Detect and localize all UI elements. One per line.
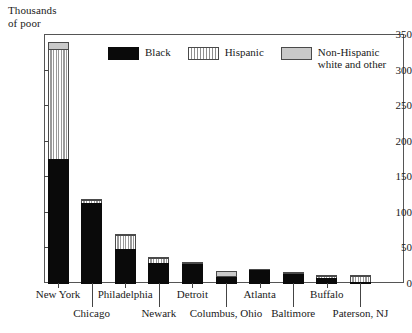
bar-segment bbox=[115, 235, 136, 250]
x-axis-label: Buffalo bbox=[310, 288, 343, 300]
y-axis-title: Thousands of poor bbox=[8, 4, 57, 29]
legend-swatch-hispanic-icon bbox=[188, 47, 219, 60]
y-axis-tick-label: 50 bbox=[378, 241, 412, 253]
bar bbox=[115, 234, 136, 283]
y-axis-tick-label: 200 bbox=[378, 135, 412, 147]
legend-swatch-gray-icon bbox=[281, 47, 312, 60]
y-axis-tick-label: 150 bbox=[378, 170, 412, 182]
legend-label-nonhispanic-white-other: Non-Hispanic white and other bbox=[318, 46, 386, 70]
y-axis-tick-label: 0 bbox=[378, 277, 412, 289]
x-axis-tick-mark bbox=[260, 283, 261, 288]
x-axis-label: Baltimore bbox=[271, 307, 315, 319]
bar bbox=[148, 257, 169, 283]
x-axis-label: Paterson, NJ bbox=[333, 307, 389, 319]
x-axis-tick-mark bbox=[360, 283, 361, 307]
bar-segment bbox=[182, 264, 203, 284]
x-axis-tick-mark bbox=[192, 283, 193, 288]
bar-segment bbox=[115, 249, 136, 284]
x-axis-tick-mark bbox=[125, 283, 126, 288]
legend-item-black: Black bbox=[108, 46, 171, 60]
x-axis-tick-mark bbox=[226, 283, 227, 307]
x-axis-tick-mark bbox=[58, 283, 59, 288]
bar bbox=[283, 272, 304, 283]
legend-item-hispanic: Hispanic bbox=[188, 46, 264, 60]
bar bbox=[182, 262, 203, 283]
bar bbox=[249, 269, 270, 283]
legend-swatch-black-icon bbox=[108, 47, 139, 60]
x-axis-tick-mark bbox=[293, 283, 294, 307]
bar bbox=[316, 275, 337, 283]
y-axis-tick-label: 350 bbox=[378, 28, 412, 40]
x-axis-tick-mark bbox=[92, 283, 93, 307]
x-axis-label: Columbus, Ohio bbox=[190, 307, 263, 319]
bar bbox=[81, 199, 102, 283]
x-axis-label: New York bbox=[36, 288, 81, 300]
x-axis-label: Philadelphia bbox=[98, 288, 153, 300]
y-axis-tick-label: 100 bbox=[378, 206, 412, 218]
bar bbox=[350, 275, 371, 283]
x-axis-label: Chicago bbox=[73, 307, 110, 319]
x-axis-label: Detroit bbox=[177, 288, 208, 300]
legend-label-hispanic: Hispanic bbox=[225, 46, 264, 58]
bar-segment bbox=[48, 49, 69, 160]
x-axis-label: Newark bbox=[141, 307, 176, 319]
chart-legend: Black Hispanic Non-Hispanic white and ot… bbox=[108, 46, 386, 70]
bar-segment bbox=[81, 203, 102, 284]
x-axis-tick-mark bbox=[327, 283, 328, 288]
legend-item-nonhispanic-white-other: Non-Hispanic white and other bbox=[281, 46, 386, 70]
bar bbox=[216, 271, 237, 284]
bar-segment bbox=[148, 263, 169, 284]
bar-segment bbox=[249, 270, 270, 284]
bar-segment bbox=[48, 159, 69, 284]
y-axis-tick-label: 250 bbox=[378, 99, 412, 111]
bar bbox=[48, 42, 69, 283]
poverty-stacked-bar-chart: Thousands of poor 050100150200250300350 … bbox=[0, 0, 412, 333]
x-axis-label: Atlanta bbox=[243, 288, 275, 300]
legend-label-black: Black bbox=[145, 46, 171, 58]
x-axis-tick-mark bbox=[159, 283, 160, 307]
